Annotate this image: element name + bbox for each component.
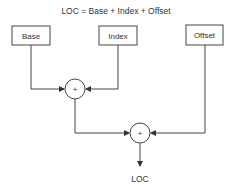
offset-to-adder2-line	[151, 45, 205, 133]
output-label: LOC	[131, 174, 148, 184]
base-label: Base	[22, 32, 41, 41]
second-adder: +	[130, 123, 150, 143]
base-box: Base	[12, 26, 50, 45]
index-label: Index	[108, 32, 128, 41]
offset-box: Offset	[186, 25, 223, 45]
adder1-to-adder2-line	[75, 99, 129, 133]
index-box: Index	[99, 26, 137, 45]
diagram-title: LOC = Base + Index + Offset	[61, 6, 171, 16]
base-to-adder-line	[31, 45, 64, 89]
plus-icon: +	[138, 129, 143, 138]
plus-icon: +	[73, 85, 78, 94]
address-computation-diagram: LOC = Base + Index + Offset Base Index O…	[0, 0, 233, 189]
offset-label: Offset	[194, 31, 216, 40]
index-to-adder-line	[86, 45, 118, 89]
first-adder: +	[65, 79, 85, 99]
